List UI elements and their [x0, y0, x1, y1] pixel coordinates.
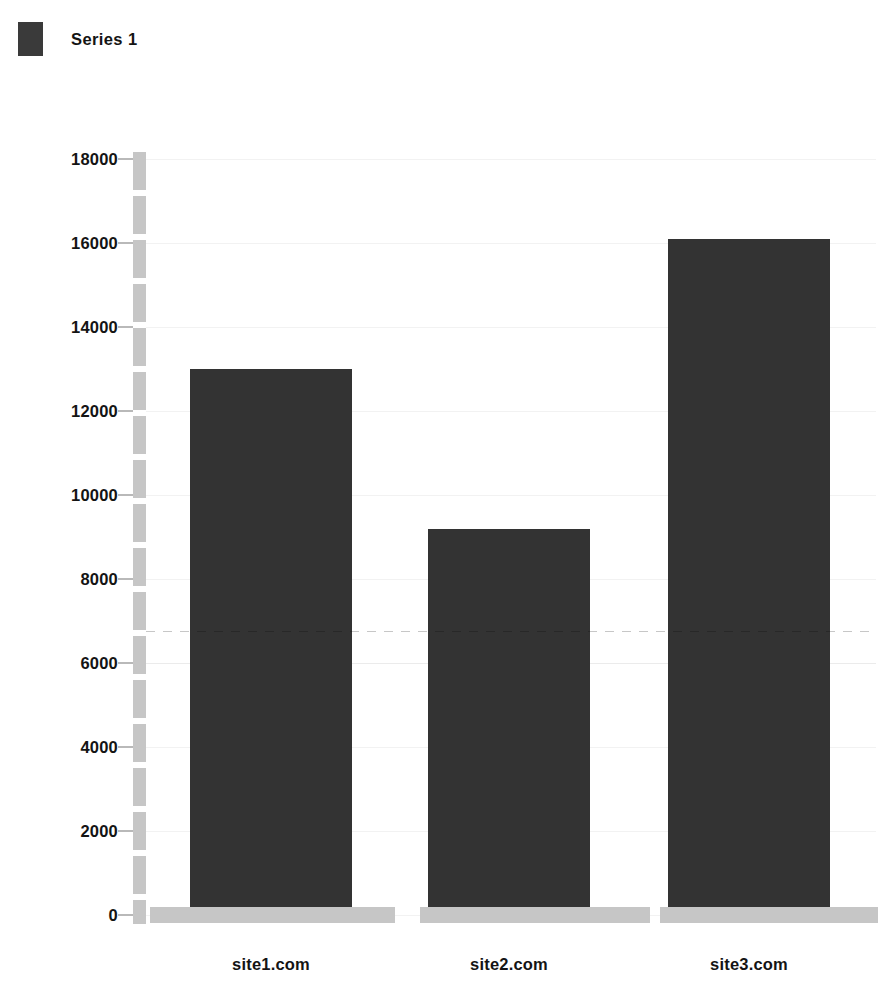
y-axis-labels: 1800016000140001200010000800060004000200… [10, 0, 118, 1003]
gridline-18000 [146, 159, 876, 160]
y-tick-label-14000: 14000 [18, 318, 118, 337]
x-tick-label-site1.com: site1.com [232, 955, 310, 974]
y-tick-label-10000: 10000 [18, 486, 118, 505]
y-tick-label-12000: 12000 [18, 402, 118, 421]
x-axis-segment-1 [150, 907, 395, 923]
y-tickmark-14000 [118, 326, 133, 328]
bar-site3.com[interactable] [668, 239, 830, 915]
y-tickmark-4000 [118, 746, 133, 748]
x-axis-segment-3 [660, 907, 878, 923]
y-tickmark-8000 [118, 578, 133, 580]
y-tickmark-18000 [118, 158, 133, 160]
x-tick-label-site3.com: site3.com [710, 955, 788, 974]
x-axis-segment-2 [420, 907, 650, 923]
y-tick-label-4000: 4000 [18, 738, 118, 757]
x-tick-label-site2.com: site2.com [470, 955, 548, 974]
bar-site2.com[interactable] [428, 529, 590, 915]
y-tick-label-16000: 16000 [18, 234, 118, 253]
y-tickmark-2000 [118, 830, 133, 832]
y-tickmark-0 [118, 914, 133, 916]
overlay-dash-line [146, 631, 876, 632]
y-tickmark-12000 [118, 410, 133, 412]
y-tick-label-6000: 6000 [18, 654, 118, 673]
y-tickmark-16000 [118, 242, 133, 244]
plot-area: 1800016000140001200010000800060004000200… [0, 0, 884, 1003]
bar-chart: Series 1 1800016000140001200010000800060… [0, 0, 884, 1003]
bar-site1.com[interactable] [190, 369, 352, 915]
y-tick-label-18000: 18000 [18, 150, 118, 169]
x-axis-origin-stub [133, 907, 146, 923]
y-tickmark-6000 [118, 662, 133, 664]
y-axis-spine [133, 152, 146, 924]
y-tickmark-10000 [118, 494, 133, 496]
y-tick-label-0: 0 [18, 906, 118, 925]
y-tick-label-2000: 2000 [18, 822, 118, 841]
y-tick-label-8000: 8000 [18, 570, 118, 589]
